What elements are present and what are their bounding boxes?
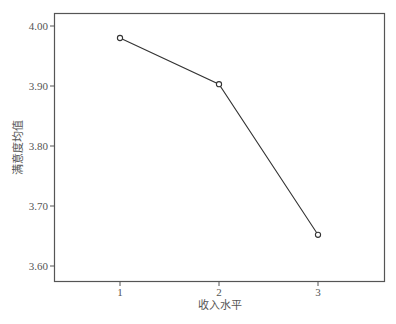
series-line <box>120 38 318 235</box>
data-point-marker <box>117 35 122 40</box>
y-tick-label: 4.00 <box>29 20 49 32</box>
y-tick-label: 3.80 <box>29 140 49 152</box>
y-axis: 3.603.703.803.904.00 <box>29 20 55 272</box>
x-tick-label: 2 <box>216 286 222 298</box>
data-series <box>117 35 320 237</box>
x-axis: 123 <box>117 282 321 299</box>
line-chart: 3.603.703.803.904.00 123 收入水平 满意度均值 <box>0 0 396 324</box>
y-tick-label: 3.90 <box>29 80 49 92</box>
plot-frame <box>55 14 385 282</box>
x-tick-label: 3 <box>315 286 321 298</box>
y-tick-label: 3.70 <box>29 200 49 212</box>
data-point-marker <box>315 232 320 237</box>
x-axis-title: 收入水平 <box>198 298 242 312</box>
y-axis-title: 满意度均值 <box>11 120 25 175</box>
x-tick-label: 1 <box>117 286 123 298</box>
data-point-marker <box>216 82 221 87</box>
y-tick-label: 3.60 <box>29 260 49 272</box>
